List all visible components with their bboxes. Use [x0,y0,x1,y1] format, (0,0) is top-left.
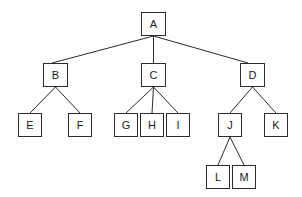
tree-node-f[interactable]: F [68,113,92,137]
tree-node-d[interactable]: D [240,63,265,87]
tree-edge-j-l [218,137,230,165]
tree-node-i[interactable]: I [166,113,190,137]
tree-node-g[interactable]: G [114,113,138,137]
tree-node-k[interactable]: K [264,113,288,137]
tree-node-label: E [26,119,33,130]
tree-node-label: K [272,119,279,130]
tree-node-label: D [249,69,257,80]
tree-node-h[interactable]: H [140,113,164,137]
tree-node-label: M [239,171,248,182]
tree-node-label: J [227,119,233,130]
tree-edge-d-k [253,87,277,113]
tree-node-a[interactable]: A [141,12,166,36]
tree-edge-d-j [230,87,253,113]
tree-node-c[interactable]: C [141,63,166,87]
tree-edge-c-g [126,87,154,113]
tree-edge-c-i [154,87,179,113]
tree-edge-j-m [230,137,244,165]
tree-node-j[interactable]: J [218,113,242,137]
tree-node-b[interactable]: B [43,63,68,87]
tree-node-label: I [176,119,179,130]
tree-edge-c-h [152,87,154,113]
tree-diagram: ABCDEFGHIJKLM [0,0,302,197]
tree-edge-a-d [154,36,249,63]
tree-node-label: B [52,69,59,80]
tree-node-label: G [122,119,131,130]
tree-node-label: H [148,119,156,130]
tree-edge-a-b [52,36,154,63]
tree-node-e[interactable]: E [18,113,42,137]
tree-node-l[interactable]: L [206,165,230,189]
tree-node-label: L [215,171,221,182]
tree-node-m[interactable]: M [232,165,256,189]
tree-node-label: F [77,119,84,130]
tree-node-label: A [150,18,157,29]
tree-edge-b-e [30,87,56,113]
tree-edge-b-f [56,87,81,113]
tree-node-label: C [150,69,158,80]
